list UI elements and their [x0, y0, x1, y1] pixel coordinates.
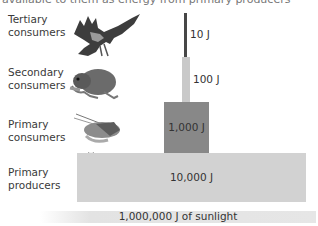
- label-secondary-consumers: Secondary consumers: [8, 66, 65, 92]
- mouse-icon: [68, 64, 120, 102]
- grasshopper-icon: [72, 110, 128, 146]
- bar-tertiary-consumers: [184, 13, 187, 57]
- label-primary-consumers: Primary consumers: [8, 118, 65, 144]
- energy-primary-producers: 10,000 J: [77, 171, 306, 183]
- energy-tertiary: 10 J: [190, 28, 210, 40]
- hawk-icon: [70, 12, 142, 60]
- energy-secondary: 100 J: [193, 73, 219, 85]
- sunlight-label: 1,000,000 J of sunlight: [40, 210, 316, 222]
- caption-fragment: available to them as energy from primary…: [2, 0, 290, 6]
- energy-primary-consumers: 1,000 J: [164, 121, 209, 133]
- label-tertiary-consumers: Tertiary consumers: [8, 13, 65, 39]
- bar-secondary-consumers: [182, 57, 190, 102]
- label-primary-producers: Primary producers: [8, 166, 61, 192]
